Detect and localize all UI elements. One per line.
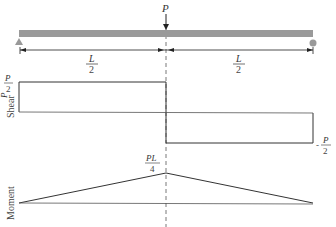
svg-text:2: 2 — [236, 64, 241, 75]
shear-diagram — [19, 82, 313, 143]
svg-text:2: 2 — [6, 84, 11, 94]
beam-diagram: P L 2 L 2 Shear P P 2 - P 2 — [0, 0, 336, 227]
svg-text:2: 2 — [89, 64, 94, 75]
moment-axis-label: Moment — [5, 186, 16, 220]
pin-support-icon — [15, 38, 23, 45]
svg-text:2: 2 — [323, 146, 328, 156]
svg-text:P: P — [4, 73, 11, 83]
svg-text:L: L — [235, 53, 242, 64]
roller-support-icon — [310, 40, 317, 47]
span-right-label: L 2 — [233, 53, 245, 75]
beam — [19, 30, 313, 37]
svg-text:P: P — [322, 135, 329, 145]
dimension-line — [20, 47, 313, 54]
svg-text:4: 4 — [150, 164, 155, 174]
load-label: P — [161, 2, 169, 14]
load-arrow-icon — [163, 14, 169, 30]
moment-peak-label: PL 4 — [145, 153, 160, 174]
svg-text:L: L — [88, 53, 95, 64]
svg-text:-: - — [316, 140, 319, 150]
svg-text:PL: PL — [145, 153, 157, 163]
span-left-label: L 2 — [86, 53, 98, 75]
shear-positive-fraction: P 2 — [4, 73, 13, 94]
shear-negative-label: - P 2 — [316, 135, 331, 156]
